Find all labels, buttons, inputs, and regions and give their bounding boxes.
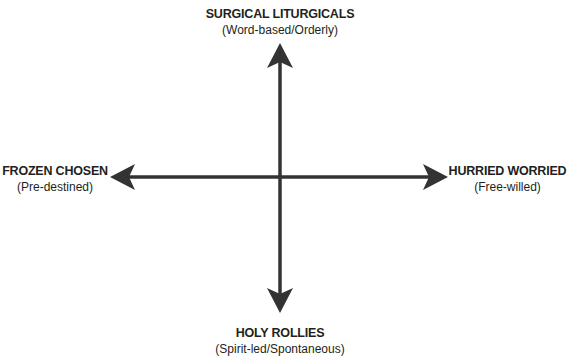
left-axis-subtitle: (Pre-destined) xyxy=(0,179,110,195)
right-axis-label: HURRIED WORRIED (Free-willed) xyxy=(448,163,567,195)
top-axis-label: SURGICAL LITURGICALS (Word-based/Orderly… xyxy=(180,6,380,38)
top-axis-subtitle: (Word-based/Orderly) xyxy=(180,22,380,38)
left-axis-label: FROZEN CHOSEN (Pre-destined) xyxy=(0,163,110,195)
bottom-axis-subtitle: (Spirit-led/Spontaneous) xyxy=(185,341,375,357)
top-axis-title: SURGICAL LITURGICALS xyxy=(180,6,380,22)
right-axis-subtitle: (Free-willed) xyxy=(448,179,567,195)
right-axis-title: HURRIED WORRIED xyxy=(448,163,567,179)
left-axis-title: FROZEN CHOSEN xyxy=(0,163,110,179)
bottom-axis-label: HOLY ROLLIES (Spirit-led/Spontaneous) xyxy=(185,325,375,357)
bottom-axis-title: HOLY ROLLIES xyxy=(185,325,375,341)
